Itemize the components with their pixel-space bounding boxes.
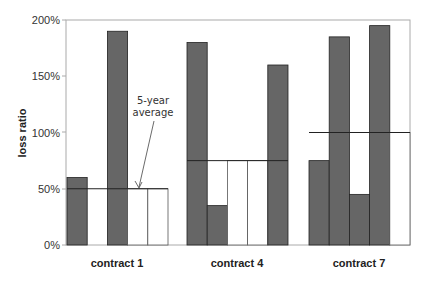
y-tick: 0% — [44, 239, 60, 251]
annotation-line1: 5-year — [137, 95, 170, 106]
arrow-icon — [139, 121, 154, 187]
bar — [187, 43, 207, 246]
bar — [227, 161, 247, 245]
bar — [107, 31, 127, 245]
x-label-contract-4: contract 4 — [211, 257, 264, 269]
bar — [390, 133, 410, 246]
bar — [329, 37, 349, 245]
bar — [248, 161, 268, 245]
y-tick: 100% — [32, 127, 60, 139]
x-label-contract-7: contract 7 — [333, 257, 386, 269]
y-tick: 50% — [38, 183, 60, 195]
bar — [148, 189, 168, 245]
loss-ratio-chart: 0% 50% 100% 150% 200% loss ratio 5-year … — [0, 0, 431, 286]
y-tick: 150% — [32, 70, 60, 82]
bars — [67, 26, 410, 245]
bar — [268, 65, 288, 245]
bar — [309, 161, 329, 245]
annotation-line2: average — [133, 107, 174, 118]
x-label-contract-1: contract 1 — [91, 257, 144, 269]
y-axis: 0% 50% 100% 150% 200% — [32, 14, 66, 251]
y-tick: 200% — [32, 14, 60, 26]
annotation: 5-year average — [133, 95, 174, 188]
bar — [370, 26, 390, 245]
y-axis-label: loss ratio — [16, 108, 28, 157]
bar — [128, 189, 148, 245]
bar — [349, 194, 369, 245]
bar — [207, 206, 227, 245]
bar — [67, 178, 87, 246]
